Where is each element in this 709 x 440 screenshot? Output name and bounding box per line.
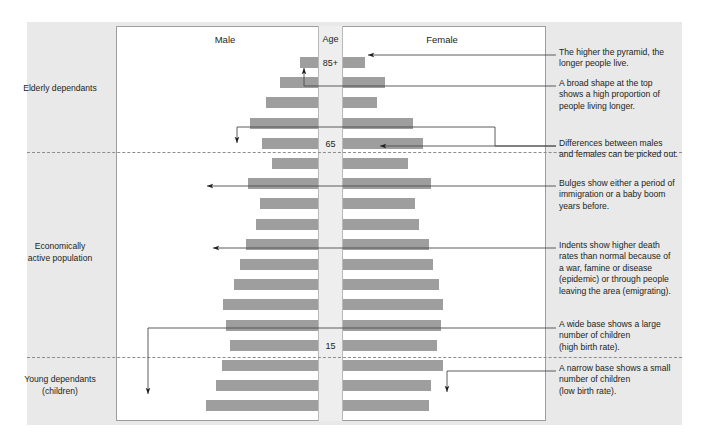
age-axis-column [318,26,343,421]
note-indents-line4: (epidemic) or through people [559,274,699,285]
bar-male-40-44 [246,239,318,250]
note-indents-line3: a war, famine or disease [559,263,699,274]
note-narrow-base-line1: A narrow base shows a small [559,363,699,374]
age-marker-15: 15 [318,341,343,351]
category-economically-active: Economically active population [8,241,112,264]
note-indents-line2: rates than normal because of [559,251,699,262]
note-narrow-base-line3: (low birth rate). [559,386,699,397]
bar-female-55-59 [343,178,431,189]
age-marker-85plus: 85+ [318,58,343,68]
bar-female-65-69 [343,138,423,149]
note-wide-base-line1: A wide base shows a large [559,319,699,330]
category-economic-line1: Economically [35,241,86,251]
note-bulges: Bulges show either a period of immigrati… [559,178,699,212]
bar-female-15-19 [343,340,437,351]
bar-male-5-9 [216,380,318,391]
note-higher-pyramid-line2: longer people live. [559,58,699,69]
header-male: Male [140,34,310,45]
bar-male-15-19 [230,340,318,351]
note-bulges-line2: immigration or a baby boom [559,189,699,200]
bar-female-0-4 [343,400,429,411]
bar-female-70-74 [343,118,413,129]
note-broad-top-line1: A broad shape at the top [559,78,699,89]
bar-female-5-9 [343,380,431,391]
category-young-line1: Young dependants [24,374,95,384]
bar-female-40-44 [343,239,429,250]
bar-female-25-29 [343,299,443,310]
note-wide-base-line2: number of children [559,330,699,341]
bar-male-25-29 [223,299,318,310]
note-wide-base: A wide base shows a large number of chil… [559,319,699,353]
bar-female-80-84 [343,77,385,88]
age-marker-65: 65 [318,139,343,149]
bar-female-85+ [343,57,365,68]
divider-15 [27,357,682,358]
note-narrow-base-line2: number of children [559,374,699,385]
note-broad-top-line3: people living longer. [559,101,699,112]
bar-female-75-79 [343,97,377,108]
note-indents: Indents show higher death rates than nor… [559,240,699,297]
population-pyramid-diagram: Male Age Female 85+ 65 15 Elderly depend… [0,0,709,440]
bar-male-80-84 [280,77,318,88]
bar-male-65-69 [262,138,318,149]
bar-female-30-34 [343,279,439,290]
note-narrow-base: A narrow base shows a small number of ch… [559,363,699,397]
category-young-line2: (children) [42,386,78,396]
category-young-dependants: Young dependants (children) [8,374,112,397]
header-female: Female [352,34,532,45]
bar-male-85+ [300,57,318,68]
note-broad-top: A broad shape at the top shows a high pr… [559,78,699,112]
note-differences-line1: Differences between males [559,138,699,149]
bar-female-60-64 [343,158,408,169]
bar-male-60-64 [272,158,318,169]
note-higher-pyramid: The higher the pyramid, the longer peopl… [559,47,699,70]
bar-male-70-74 [250,118,318,129]
note-wide-base-line3: (high birth rate). [559,342,699,353]
category-elderly-dependants: Elderly dependants [8,83,112,95]
category-economic-line2: active population [28,253,93,263]
note-broad-top-line2: shows a high proportion of [559,89,699,100]
bar-male-35-39 [240,259,318,270]
bar-male-0-4 [206,400,318,411]
bar-male-10-14 [222,360,318,371]
bar-male-75-79 [266,97,318,108]
note-indents-line5: leaving the area (emigrating). [559,286,699,297]
bar-male-20-24 [226,320,318,331]
bar-male-55-59 [248,178,318,189]
note-bulges-line3: years before. [559,201,699,212]
bar-female-35-39 [343,259,433,270]
note-differences-line2: and females can be picked out. [559,149,699,160]
bar-male-45-49 [256,219,318,230]
bar-female-20-24 [343,320,441,331]
category-elderly-label: Elderly dependants [23,83,97,93]
bar-male-30-34 [234,279,318,290]
note-bulges-line1: Bulges show either a period of [559,178,699,189]
bar-female-10-14 [343,360,443,371]
note-indents-line1: Indents show higher death [559,240,699,251]
note-differences: Differences between males and females ca… [559,138,699,161]
bar-male-50-54 [260,198,318,209]
bar-female-45-49 [343,219,419,230]
note-higher-pyramid-line1: The higher the pyramid, the [559,47,699,58]
bar-female-50-54 [343,198,415,209]
header-age: Age [318,34,343,44]
